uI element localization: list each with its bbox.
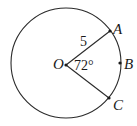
label-O: O	[53, 57, 64, 72]
label-B: B	[124, 57, 133, 72]
circle	[11, 8, 121, 118]
point-C	[107, 96, 110, 99]
label-A: A	[113, 22, 122, 37]
angle-label: 72°	[74, 59, 94, 73]
label-C: C	[113, 98, 123, 113]
point-O	[64, 63, 67, 66]
radius-length-label: 5	[80, 35, 87, 49]
circle-diagram: O A B C 5 72°	[0, 0, 137, 126]
point-B	[118, 61, 121, 64]
point-A	[108, 29, 111, 32]
